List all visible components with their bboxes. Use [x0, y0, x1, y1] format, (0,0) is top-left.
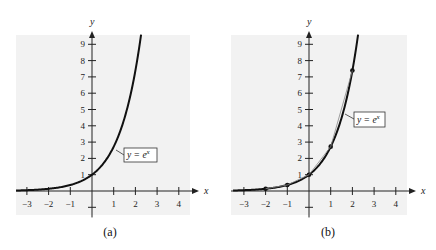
x-tick-label: 3	[372, 199, 377, 209]
x-tick-label: 1	[111, 199, 116, 209]
y-axis-label: y	[89, 16, 95, 27]
y-tick-label: 5	[298, 105, 303, 115]
x-tick-label: −1	[66, 199, 76, 209]
y-tick-label: 3	[81, 137, 86, 147]
y-tick-label: 5	[81, 105, 86, 115]
y-axis-label: y	[306, 16, 312, 27]
panel-b: xy−3−2−11234123456789y = ex(b)	[231, 16, 426, 239]
x-axis-arrow-icon	[192, 188, 199, 194]
plot-background	[16, 35, 190, 215]
y-tick-label: 6	[81, 88, 86, 98]
x-tick-label: −2	[44, 199, 54, 209]
x-tick-label: 3	[155, 199, 160, 209]
y-tick-label: 4	[298, 121, 303, 131]
y-axis-arrow-icon	[306, 31, 312, 38]
x-tick-label: −1	[283, 199, 293, 209]
x-tick-label: −3	[239, 199, 249, 209]
panel-a: xy−3−2−11234123456789y = ex(a)	[16, 16, 209, 239]
x-tick-label: 4	[394, 199, 399, 209]
panel-caption: (a)	[103, 225, 116, 239]
y-tick-label: 8	[298, 56, 303, 66]
x-tick-label: 4	[177, 199, 182, 209]
data-point	[350, 68, 355, 73]
y-tick-label: 7	[81, 72, 86, 82]
exponential-function-figure: xy−3−2−11234123456789y = ex(a) xy−3−2−11…	[0, 0, 436, 250]
x-tick-label: −3	[22, 199, 32, 209]
x-tick-label: 2	[133, 199, 138, 209]
y-tick-label: 9	[81, 39, 86, 49]
y-tick-label: 8	[81, 56, 86, 66]
y-tick-label: 3	[298, 137, 303, 147]
x-axis-label: x	[420, 185, 426, 196]
y-tick-label: 6	[298, 88, 303, 98]
y-tick-label: 4	[81, 121, 86, 131]
y-tick-label: 7	[298, 72, 303, 82]
x-axis-arrow-icon	[409, 188, 416, 194]
x-tick-label: 1	[328, 199, 333, 209]
y-tick-label: 1	[81, 170, 86, 180]
panel-caption: (b)	[321, 225, 335, 239]
y-tick-label: 2	[81, 153, 86, 163]
x-tick-label: −2	[261, 199, 271, 209]
y-tick-label: 2	[298, 153, 303, 163]
y-tick-label: 9	[298, 39, 303, 49]
y-axis-arrow-icon	[89, 31, 95, 38]
x-axis-label: x	[203, 185, 209, 196]
x-tick-label: 2	[350, 199, 355, 209]
